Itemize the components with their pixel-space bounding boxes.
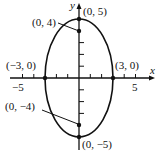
x-axis-arrow-icon — [149, 76, 155, 81]
point-bottom-vertex — [77, 135, 81, 139]
point-left-intercept — [43, 76, 47, 80]
point-right-intercept — [111, 76, 115, 80]
label-bottom-vertex: (0, −5) — [82, 138, 112, 151]
point-top-vertex — [77, 17, 81, 21]
label-right-intercept: (3, 0) — [115, 59, 139, 72]
leader-lower-focus — [42, 110, 78, 124]
label-left-intercept: (−3, 0) — [6, 59, 36, 72]
ellipse-diagram: y x (0, 5) (0, 4) (−3, 0) (3, 0) (0, −4)… — [0, 0, 158, 154]
tick-label-pos5: 5 — [132, 81, 138, 93]
y-axis-arrow-icon — [77, 3, 82, 9]
label-top-vertex: (0, 5) — [83, 5, 107, 18]
tick-label-neg5: −5 — [12, 81, 24, 93]
label-upper-focus: (0, 4) — [32, 16, 56, 29]
x-axis-label: x — [149, 64, 155, 76]
label-lower-focus: (0, −4) — [5, 100, 35, 113]
y-axis-label: y — [69, 0, 75, 11]
